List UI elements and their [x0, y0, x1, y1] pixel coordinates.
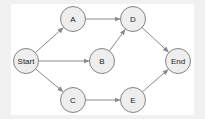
node-label: End — [171, 57, 185, 66]
edge-d-to-end — [142, 28, 168, 53]
node-label: A — [70, 15, 76, 24]
node-label: Start — [18, 57, 36, 66]
edge-e-to-end — [142, 70, 168, 92]
node-label: E — [130, 96, 135, 105]
node-a: A — [61, 7, 86, 32]
node-start: Start — [14, 49, 39, 74]
node-e: E — [121, 88, 146, 113]
diagram-frame: StartABCDEEnd — [0, 0, 205, 119]
flow-diagram: StartABCDEEnd — [0, 0, 205, 119]
node-label: C — [70, 96, 76, 105]
node-d: D — [121, 7, 146, 32]
node-end: End — [166, 49, 191, 74]
node-label: B — [99, 57, 104, 66]
nodes-layer: StartABCDEEnd — [14, 7, 191, 113]
node-b: B — [90, 49, 115, 74]
node-c: C — [61, 88, 86, 113]
edge-b-to-d — [109, 29, 125, 50]
edge-start-to-a — [35, 28, 63, 53]
edge-start-to-c — [36, 69, 63, 92]
node-label: D — [130, 15, 136, 24]
